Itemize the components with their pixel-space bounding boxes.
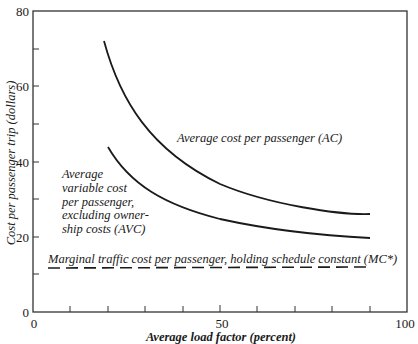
y-axis-title: Cost per passenger trip (dollars) [4, 81, 18, 246]
avc-curve [108, 147, 370, 238]
x-tick-100: 100 [395, 316, 415, 331]
svg-text:Average: Average [61, 167, 103, 181]
ac-curve [104, 41, 370, 214]
mc-annotation: Marginal traffic cost per passenger, hol… [47, 252, 397, 266]
y-ticks [33, 49, 39, 274]
ac-annotation: Average cost per passenger (AC) [176, 131, 342, 145]
svg-text:per passenger,: per passenger, [61, 195, 134, 209]
x-axis-title: Average load factor (percent) [145, 330, 296, 344]
x-tick-50: 50 [216, 316, 229, 331]
svg-text:variable cost: variable cost [62, 181, 127, 195]
svg-text:ship costs (AVC): ship costs (AVC) [62, 222, 145, 236]
x-tick-0: 0 [31, 316, 38, 331]
avc-annotation: Average variable cost per passenger, exc… [61, 167, 149, 236]
mc-dashed-line [48, 267, 370, 268]
svg-text:excluding owner-: excluding owner- [62, 208, 149, 222]
y-tick-0: 0 [23, 305, 30, 320]
y-tick-80: 80 [16, 4, 29, 19]
x-ticks [70, 305, 370, 312]
chart-canvas: 80 60 40 20 0 0 50 100 Average load fact… [0, 0, 418, 344]
